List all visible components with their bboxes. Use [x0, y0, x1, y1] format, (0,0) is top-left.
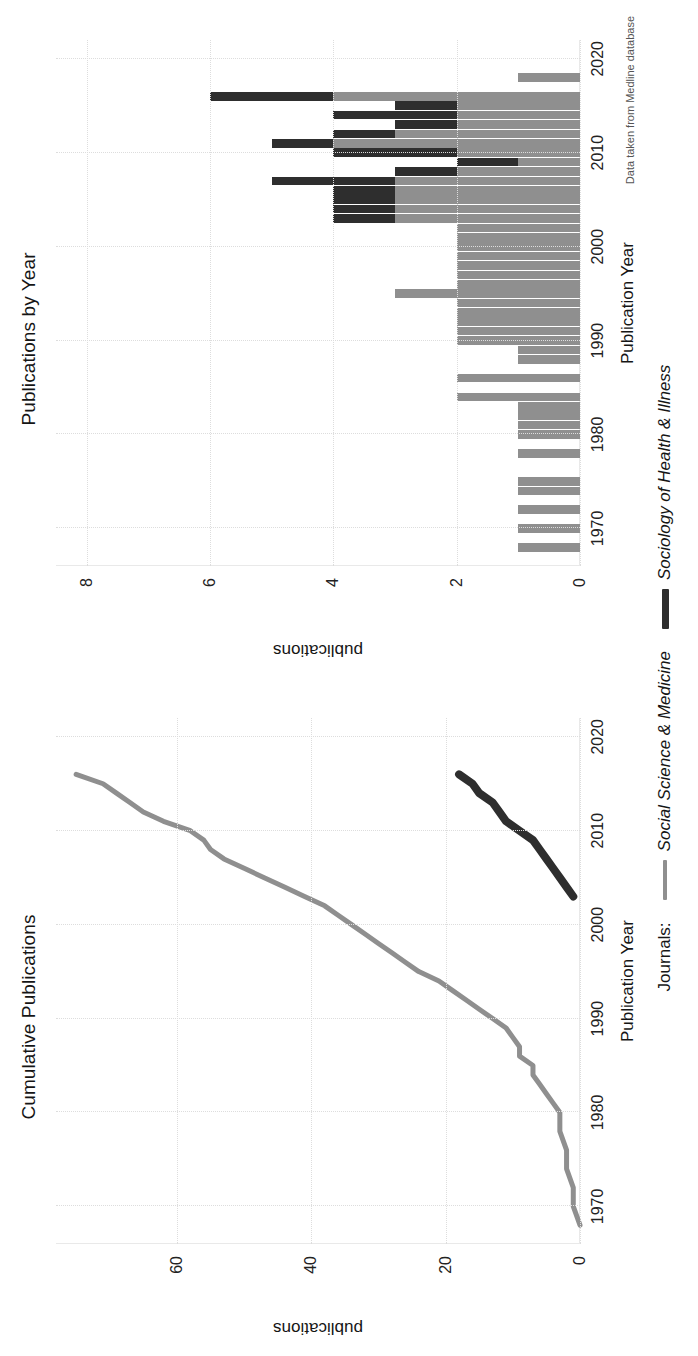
plot-area-cumulative: Publication Year publications 1970198019… — [56, 718, 580, 1244]
gridline-vertical — [56, 830, 580, 831]
bar-column — [210, 92, 580, 101]
bar-segment-social-science-and-medicine — [395, 130, 580, 139]
bar-segment-social-science-and-medicine — [457, 233, 580, 242]
bar-segment-social-science-and-medicine — [395, 289, 580, 298]
bar-segment-social-science-and-medicine — [457, 261, 580, 270]
legend-entry-label: Sociology of Health & Illness — [655, 365, 675, 580]
line-path-sociology-of-health-and-illness — [459, 774, 573, 896]
x-tick-label: 2010 — [589, 813, 607, 849]
bar-segment-social-science-and-medicine — [457, 308, 580, 317]
gridline-horizontal — [580, 40, 581, 566]
legend-entry-label: Social Science & Medicine — [655, 651, 675, 851]
bar-segment-social-science-and-medicine — [395, 195, 580, 204]
bar-segment-social-science-and-medicine — [518, 158, 580, 167]
gridline-vertical — [56, 1112, 580, 1113]
gridline-vertical — [56, 736, 580, 737]
y-tick-label: 20 — [437, 1256, 455, 1274]
bar-column — [457, 374, 580, 383]
bar-segment-social-science-and-medicine — [457, 299, 580, 308]
bar-column — [518, 411, 580, 420]
x-tick-label: 2000 — [589, 229, 607, 265]
panel-publications-by-year: Publications by Year Publication Year pu… — [0, 0, 698, 678]
y-axis-label-byyear: publications — [273, 640, 363, 660]
bar-segment-social-science-and-medicine — [457, 148, 580, 157]
panel-byyear-title: Publications by Year — [18, 0, 40, 678]
gridline-vertical — [56, 58, 580, 59]
bar-column — [457, 158, 580, 167]
bar-column — [457, 224, 580, 233]
bar-segment-social-science-and-medicine — [518, 402, 580, 411]
bar-column — [457, 336, 580, 345]
bar-segment-sociology-of-health-and-illness — [333, 148, 456, 157]
gridline-horizontal — [210, 40, 211, 566]
legend-title: Journals: — [655, 922, 675, 991]
bar-segment-social-science-and-medicine — [518, 487, 580, 496]
panel-cumulative-publications: Cumulative Publications Publication Year… — [0, 678, 698, 1356]
y-tick-label: 4 — [324, 578, 342, 587]
bar-series-byyear — [56, 40, 580, 566]
gridline-vertical — [56, 246, 580, 247]
bar-segment-sociology-of-health-and-illness — [333, 205, 395, 214]
gridline-horizontal — [333, 40, 334, 566]
panel-cumulative-title: Cumulative Publications — [18, 678, 40, 1356]
bar-segment-sociology-of-health-and-illness — [395, 167, 457, 176]
gridline-vertical — [56, 924, 580, 925]
y-tick-label: 40 — [302, 1256, 320, 1274]
bar-segment-social-science-and-medicine — [457, 101, 580, 110]
bar-column — [457, 327, 580, 336]
bar-column — [457, 252, 580, 261]
bar-segment-social-science-and-medicine — [457, 336, 580, 345]
bar-segment-social-science-and-medicine — [518, 73, 580, 82]
bar-segment-social-science-and-medicine — [457, 224, 580, 233]
bar-segment-social-science-and-medicine — [518, 505, 580, 514]
x-tick-label: 2010 — [589, 135, 607, 171]
bar-segment-social-science-and-medicine — [518, 346, 580, 355]
bar-segment-sociology-of-health-and-illness — [333, 186, 395, 195]
x-tick-label: 1990 — [589, 323, 607, 359]
line-path-social-science-and-medicine — [76, 774, 580, 1225]
bar-column — [457, 280, 580, 289]
bar-segment-social-science-and-medicine — [395, 177, 580, 186]
bar-column — [272, 177, 580, 186]
bar-column — [518, 543, 580, 552]
bar-segment-social-science-and-medicine — [457, 374, 580, 383]
bar-column — [518, 449, 580, 458]
bar-segment-social-science-and-medicine — [457, 327, 580, 336]
gridline-vertical — [56, 434, 580, 435]
bar-segment-social-science-and-medicine — [457, 271, 580, 280]
bar-column — [518, 73, 580, 82]
bar-column — [457, 261, 580, 270]
y-tick-label: 60 — [168, 1256, 186, 1274]
bar-segment-social-science-and-medicine — [395, 214, 580, 223]
publication-figure: Cumulative Publications Publication Year… — [0, 0, 698, 1356]
legend-entry-sociology-of-health-and-illness[interactable]: Sociology of Health & Illness — [655, 365, 675, 629]
bar-segment-social-science-and-medicine — [518, 477, 580, 486]
bar-column — [518, 430, 580, 439]
bar-column — [395, 101, 580, 110]
gridline-horizontal — [457, 40, 458, 566]
bar-segment-social-science-and-medicine — [457, 111, 580, 120]
gridline-vertical — [56, 527, 580, 528]
x-tick-label: 1990 — [589, 1001, 607, 1037]
x-tick-label: 1980 — [589, 417, 607, 453]
bar-segment-sociology-of-health-and-illness — [395, 120, 457, 129]
x-tick-label: 2000 — [589, 907, 607, 943]
bar-column — [457, 317, 580, 326]
bar-column — [518, 421, 580, 430]
legend-line-key-icon — [663, 860, 667, 900]
bar-column — [395, 167, 580, 176]
line-series-cumulative — [56, 718, 580, 1244]
bar-segment-social-science-and-medicine — [518, 411, 580, 420]
bar-segment-social-science-and-medicine — [457, 280, 580, 289]
figure-legend: Journals: Social Science & Medicine Soci… — [648, 0, 682, 1356]
gridline-horizontal — [311, 718, 312, 1244]
bar-column — [518, 505, 580, 514]
bar-segment-sociology-of-health-and-illness — [395, 101, 457, 110]
y-tick-label: 6 — [201, 578, 219, 587]
legend-entry-social-science-and-medicine[interactable]: Social Science & Medicine — [655, 651, 675, 900]
y-tick-label: 0 — [571, 578, 589, 587]
x-tick-label: 2020 — [589, 41, 607, 77]
bar-column — [457, 233, 580, 242]
y-tick-label: 8 — [78, 578, 96, 587]
bar-segment-sociology-of-health-and-illness — [333, 111, 456, 120]
